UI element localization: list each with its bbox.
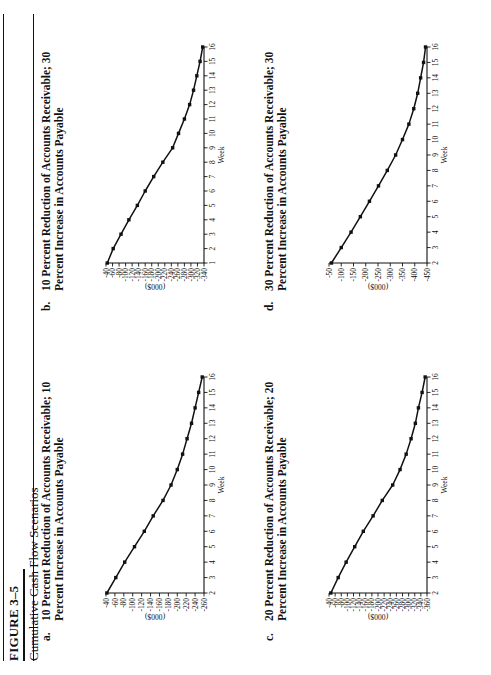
svg-text:4: 4 xyxy=(431,230,440,234)
svg-text:-50: -50 xyxy=(325,268,334,278)
rotated-page-wrapper: FIGURE 3–5 Cumulative Cash Flow Scenario… xyxy=(0,0,491,675)
svg-text:5: 5 xyxy=(431,215,440,219)
panel-grid: a. 10 Percent Reduction of Accounts Rece… xyxy=(38,7,484,667)
svg-text:7: 7 xyxy=(431,514,440,518)
svg-text:-400: -400 xyxy=(410,268,419,282)
svg-text:11: 11 xyxy=(208,115,217,122)
svg-text:-180: -180 xyxy=(164,598,173,612)
svg-text:12: 12 xyxy=(431,435,440,443)
svg-text:(000$): (000$) xyxy=(144,282,165,291)
svg-text:9: 9 xyxy=(431,483,440,487)
svg-text:-80: -80 xyxy=(119,598,128,608)
svg-text:-160: -160 xyxy=(155,598,164,612)
svg-text:5: 5 xyxy=(208,545,217,549)
svg-text:-360: -360 xyxy=(423,598,432,612)
svg-text:16: 16 xyxy=(431,373,440,381)
svg-text:3: 3 xyxy=(431,245,440,249)
svg-text:-60: -60 xyxy=(111,598,120,608)
panel-d-chart: -50-100-150-200-250-300-350-400-45023456… xyxy=(323,41,449,293)
svg-text:13: 13 xyxy=(208,419,217,427)
svg-text:6: 6 xyxy=(208,529,217,533)
svg-text:16: 16 xyxy=(208,43,217,51)
svg-text:15: 15 xyxy=(431,58,440,66)
svg-text:11: 11 xyxy=(431,120,440,127)
svg-text:2: 2 xyxy=(431,261,440,265)
svg-text:7: 7 xyxy=(208,514,217,518)
panel-a-letter: a. xyxy=(40,632,52,641)
svg-text:-220: -220 xyxy=(182,598,191,612)
svg-text:3: 3 xyxy=(208,575,217,579)
svg-text:-240: -240 xyxy=(191,598,200,612)
svg-text:13: 13 xyxy=(431,89,440,97)
figure-number: FIGURE 3–5 xyxy=(6,487,22,661)
svg-text:(000$): (000$) xyxy=(367,282,388,291)
svg-text:13: 13 xyxy=(431,419,440,427)
panel-b-plot: -40-60-80-100-120-140-160-180-200-220-24… xyxy=(100,41,226,293)
svg-text:-40: -40 xyxy=(102,598,111,608)
panel-a: a. 10 Percent Reduction of Accounts Rece… xyxy=(38,337,261,667)
svg-text:8: 8 xyxy=(431,498,440,502)
svg-text:16: 16 xyxy=(431,43,440,51)
panel-c-chart: -40-60-80-100-120-140-160-180-200-220-24… xyxy=(323,371,449,623)
svg-text:8: 8 xyxy=(208,160,217,164)
panel-b-letter: b. xyxy=(40,302,52,311)
svg-text:13: 13 xyxy=(208,86,217,94)
svg-text:4: 4 xyxy=(431,560,440,564)
svg-text:-300: -300 xyxy=(386,268,395,282)
svg-text:12: 12 xyxy=(208,101,217,109)
svg-text:7: 7 xyxy=(431,184,440,188)
panel-a-title: 10 Percent Reduction of Accounts Receiva… xyxy=(40,371,66,621)
svg-text:10: 10 xyxy=(431,466,440,474)
svg-text:2: 2 xyxy=(208,591,217,595)
svg-text:12: 12 xyxy=(208,435,217,443)
svg-text:10: 10 xyxy=(208,129,217,137)
svg-text:3: 3 xyxy=(431,575,440,579)
panel-c-letter: c. xyxy=(263,633,275,641)
svg-text:12: 12 xyxy=(431,105,440,113)
svg-text:-100: -100 xyxy=(128,598,137,612)
svg-text:(000$): (000$) xyxy=(144,612,165,621)
svg-text:Week: Week xyxy=(217,146,226,163)
svg-text:14: 14 xyxy=(208,404,217,412)
svg-text:15: 15 xyxy=(208,57,217,65)
svg-text:-250: -250 xyxy=(374,268,383,282)
svg-text:-200: -200 xyxy=(173,598,182,612)
svg-text:-200: -200 xyxy=(361,268,370,282)
panel-b-chart: -40-60-80-100-120-140-160-180-200-220-24… xyxy=(100,41,226,293)
page-top-rule xyxy=(3,14,4,661)
panel-c-plot: -40-60-80-100-120-140-160-180-200-220-24… xyxy=(323,371,449,623)
svg-text:Week: Week xyxy=(217,476,226,493)
page-second-rule xyxy=(33,14,34,661)
panel-a-chart: -40-60-80-100-120-140-160-180-200-220-24… xyxy=(100,371,226,623)
svg-text:-340: -340 xyxy=(200,268,209,282)
svg-text:9: 9 xyxy=(208,483,217,487)
svg-text:-100: -100 xyxy=(337,268,346,282)
panel-a-plot: -40-60-80-100-120-140-160-180-200-220-24… xyxy=(100,371,226,623)
panel-d-plot: -50-100-150-200-250-300-350-400-45023456… xyxy=(323,41,449,293)
svg-text:-450: -450 xyxy=(423,268,432,282)
svg-text:15: 15 xyxy=(208,388,217,396)
svg-text:Week: Week xyxy=(440,476,449,493)
panel-d-letter: d. xyxy=(263,302,275,311)
svg-text:3: 3 xyxy=(208,232,217,236)
svg-text:2: 2 xyxy=(208,246,217,250)
svg-text:-260: -260 xyxy=(200,598,209,612)
svg-text:6: 6 xyxy=(431,199,440,203)
svg-text:8: 8 xyxy=(208,498,217,502)
panel-c: c. 20 Percent Reduction of Accounts Rece… xyxy=(261,337,484,667)
svg-text:4: 4 xyxy=(208,218,217,222)
svg-text:Week: Week xyxy=(440,146,449,163)
figure-header: FIGURE 3–5 Cumulative Cash Flow Scenario… xyxy=(6,487,42,661)
panel-d-title: 30 Percent Reduction of Accounts Receiva… xyxy=(263,41,289,291)
svg-text:10: 10 xyxy=(208,466,217,474)
svg-text:6: 6 xyxy=(431,529,440,533)
svg-text:9: 9 xyxy=(208,146,217,150)
svg-text:-140: -140 xyxy=(146,598,155,612)
panel-c-title: 20 Percent Reduction of Accounts Receiva… xyxy=(263,371,289,621)
figure-underline xyxy=(23,569,25,661)
svg-text:(000$): (000$) xyxy=(367,612,388,621)
svg-text:-350: -350 xyxy=(398,268,407,282)
svg-text:6: 6 xyxy=(208,189,217,193)
svg-text:15: 15 xyxy=(431,388,440,396)
svg-text:5: 5 xyxy=(431,545,440,549)
